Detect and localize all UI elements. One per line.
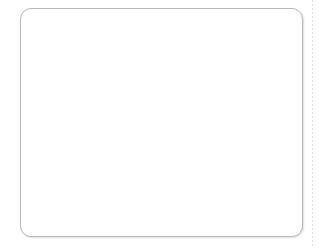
worksheet-panel [20,8,303,237]
scene-canvas [0,0,320,248]
scan-edge-line [312,0,313,248]
